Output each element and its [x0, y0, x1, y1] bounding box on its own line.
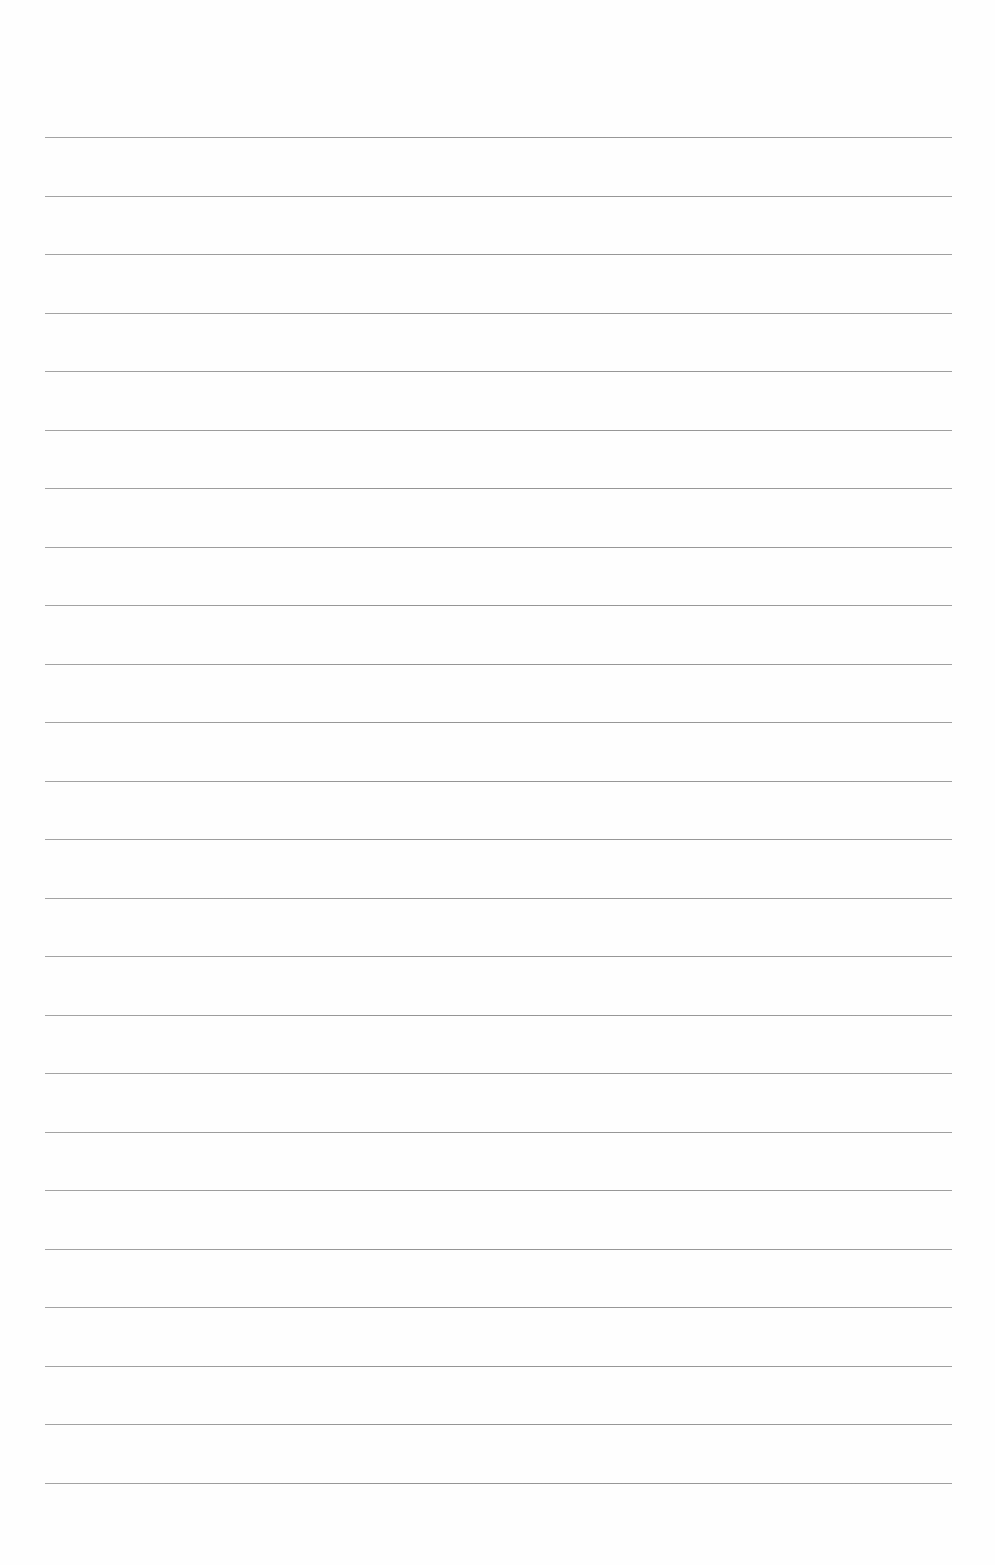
ruled-line [45, 1132, 952, 1133]
ruled-line [45, 196, 952, 197]
ruled-line [45, 254, 952, 255]
ruled-line [45, 1015, 952, 1016]
ruled-line [45, 898, 952, 899]
ruled-line [45, 605, 952, 606]
ruled-line [45, 956, 952, 957]
ruled-line [45, 1190, 952, 1191]
ruled-line [45, 1249, 952, 1250]
ruled-line [45, 1483, 952, 1484]
ruled-line [45, 430, 952, 431]
ruled-line [45, 839, 952, 840]
ruled-line [45, 722, 952, 723]
ruled-line [45, 1073, 952, 1074]
ruled-line [45, 1424, 952, 1425]
ruled-line [45, 488, 952, 489]
ruled-line [45, 781, 952, 782]
ruled-line [45, 547, 952, 548]
ruled-line [45, 137, 952, 138]
lined-paper-page [0, 0, 995, 1565]
ruled-line [45, 371, 952, 372]
ruled-line [45, 1366, 952, 1367]
ruled-line [45, 664, 952, 665]
ruled-line [45, 313, 952, 314]
ruled-line [45, 1307, 952, 1308]
